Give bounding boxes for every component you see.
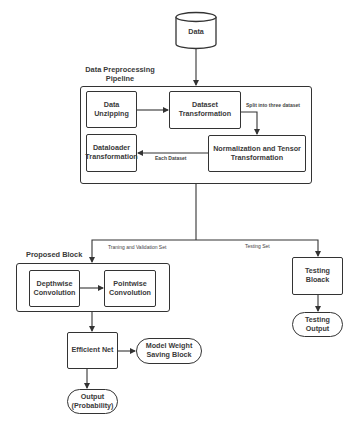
node-depthwise: Depthwise Convolution (29, 270, 80, 307)
node-testing-block: Testing Bloack (292, 257, 343, 295)
group-label-proposed: Proposed Block (26, 250, 86, 259)
edge-label-train-val: Traning and Validation Set (108, 244, 166, 250)
group-label-pipeline: Data Preprocessing Pipeline (80, 65, 160, 83)
edge-label-each-dataset: Each Dataset (155, 155, 186, 161)
node-dataset-transformation: Dataset Transformation (169, 91, 241, 129)
node-data: Data (176, 27, 216, 36)
node-dataloader: Dataloader Transformation (86, 134, 137, 172)
node-output-probability: Output (Probability) (67, 389, 118, 414)
node-model-weight: Model Weight Saving Block (136, 338, 202, 364)
flow-diagram: Data Data Preprocessing Pipeline Data Un… (0, 0, 357, 427)
node-testing-output: Testing Output (292, 312, 343, 337)
node-normalization: Normalization and Tensor Transformation (208, 135, 306, 172)
edge-label-split: Split into three dataset (246, 102, 300, 108)
node-data-unzipping: Data Unzipping (86, 91, 137, 128)
edge-label-testing-set: Testing Set (245, 243, 270, 249)
node-pointwise: Pointwise Convolution (104, 270, 156, 307)
node-efficient-net: Efficient Net (67, 332, 118, 369)
